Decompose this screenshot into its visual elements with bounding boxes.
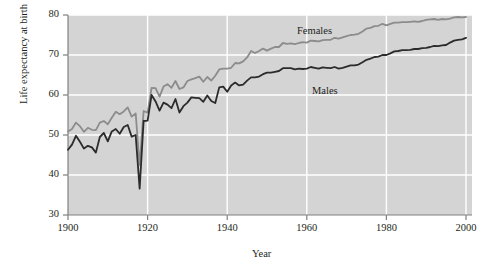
y-tick-label: 50 [49, 128, 60, 139]
chart-figure: Life expectancy at birth Year Females Ma… [0, 0, 500, 268]
x-tick-label: 1900 [58, 222, 79, 233]
x-tick-label: 1920 [137, 222, 158, 233]
y-tick-label: 80 [49, 8, 60, 19]
y-tick-label: 40 [49, 168, 60, 179]
x-axis-label: Year [252, 248, 271, 259]
x-tick-label: 1980 [376, 222, 397, 233]
y-tick-label: 30 [49, 208, 60, 219]
series-label-females: Females [297, 25, 332, 36]
y-tick-label: 60 [49, 88, 60, 99]
x-tick-label: 1960 [296, 222, 317, 233]
x-tick-label: 1940 [217, 222, 238, 233]
y-tick-label: 70 [49, 48, 60, 59]
series-label-males: Males [312, 85, 338, 96]
plot-panel [68, 15, 472, 215]
x-tick-label: 2000 [456, 222, 477, 233]
y-axis-label: Life expectancy at birth [18, 4, 29, 104]
